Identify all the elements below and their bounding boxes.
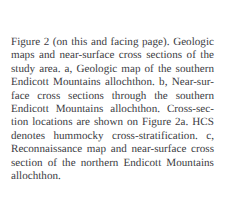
caption-word: Mountains [56, 103, 104, 116]
caption-line: allochthon. [11, 170, 214, 183]
caption-word: southern [176, 90, 214, 103]
caption-word: Endicott [11, 103, 49, 116]
caption-line: EndicottMountainsallochthon.Cross-sec- [11, 103, 214, 116]
caption-word: this [71, 36, 87, 49]
caption-word: sections [68, 90, 104, 103]
caption-word: study [11, 63, 35, 76]
caption-word: a, [65, 63, 73, 76]
caption-word: facing [111, 36, 139, 49]
caption-word: section [11, 157, 43, 170]
caption-word: northern [81, 157, 119, 170]
caption-word: maps [11, 49, 35, 62]
caption-word: the [158, 63, 172, 76]
caption-word: Cross-sec- [167, 103, 214, 116]
caption-word: Geologic [76, 63, 117, 76]
caption-line: denoteshummockycross-stratification.c, [11, 130, 214, 143]
caption-line: mapsandnear-surfacecrosssectionsofthe [11, 49, 214, 62]
caption-word: and [91, 36, 107, 49]
caption-word: Reconnaissance [11, 143, 82, 156]
caption-word: on [127, 116, 138, 129]
caption-word: near-surface [132, 143, 187, 156]
caption-word: Endicott [123, 157, 161, 170]
figure-caption-text: Figure2(onthisandfacingpage).Geologicmap… [11, 36, 214, 183]
caption-word: near-surface [60, 49, 115, 62]
caption-line: sectionofthenorthernEndicottMountains [11, 157, 214, 170]
scanned-page: Figure2(onthisandfacingpage).Geologicmap… [0, 0, 225, 221]
caption-word: denotes [11, 130, 45, 143]
caption-line: Figure2(onthisandfacingpage).Geologic [11, 36, 214, 49]
caption-word: of [187, 49, 196, 62]
caption-word: Mountains [166, 157, 214, 170]
caption-word: southern [176, 63, 214, 76]
caption-word: Endicott [11, 76, 49, 89]
caption-word: the [154, 90, 168, 103]
caption-word: page). [142, 36, 170, 49]
caption-word: shown [94, 116, 123, 129]
caption-word: and [39, 49, 55, 62]
caption-word: face [11, 90, 30, 103]
caption-word: Geologic [173, 36, 214, 49]
caption-word: HCS [192, 116, 214, 129]
caption-word: map [121, 63, 140, 76]
caption-word: and [111, 143, 127, 156]
caption-word: b, [159, 76, 167, 89]
caption-word: cross [191, 143, 214, 156]
caption-word: locations [32, 116, 72, 129]
caption-word: Mountains [53, 76, 101, 89]
caption-word: allochthon. [110, 103, 160, 116]
caption-word: Figure [142, 116, 171, 129]
caption-word: allochthon. [105, 76, 155, 89]
caption-word: the [62, 157, 76, 170]
caption-word: area. [39, 63, 60, 76]
caption-line: EndicottMountainsallochthon.b,Near-sur- [11, 76, 214, 89]
caption-word: of [145, 63, 154, 76]
caption-word: Figure [11, 36, 40, 49]
caption-word: map [87, 143, 106, 156]
caption-line: Reconnaissancemapandnear-surfacecross [11, 143, 214, 156]
caption-word: are [76, 116, 90, 129]
caption-word: cross-stratification. [112, 130, 198, 143]
caption-word: the [200, 49, 214, 62]
caption-line: studyarea.a,Geologicmapofthesouthern [11, 63, 214, 76]
caption-word: 2 [44, 36, 50, 49]
caption-word: 2a. [175, 116, 188, 129]
caption-word: cross [119, 49, 142, 62]
caption-word: hummocky [53, 130, 103, 143]
caption-word: (on [53, 36, 68, 49]
caption-line: tionlocationsareshownonFigure2a.HCS [11, 116, 214, 129]
caption-word: c, [206, 130, 214, 143]
caption-word: cross [37, 90, 60, 103]
caption-line: facecrosssectionsthroughthesouthern [11, 90, 214, 103]
caption-word: Near-sur- [172, 76, 214, 89]
caption-word: sections [146, 49, 182, 62]
caption-word: through [112, 90, 147, 103]
caption-word: tion [11, 116, 28, 129]
caption-word: of [48, 157, 57, 170]
